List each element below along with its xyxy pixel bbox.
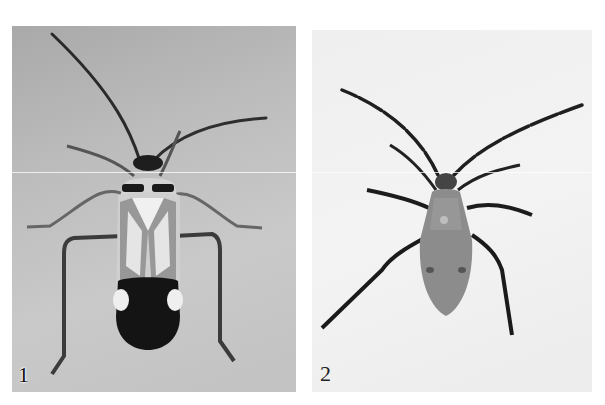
panel-label-2: 2 [320, 363, 331, 385]
figure-panel-1: 1 [12, 26, 296, 392]
panel-label-1: 1 [18, 364, 29, 386]
scan-line-artifact [312, 172, 592, 173]
scan-line-artifact [12, 172, 296, 173]
adult-bug-image [12, 26, 296, 392]
figure-panel-2: 2 [312, 30, 592, 392]
nymph-bug-image [312, 30, 592, 392]
